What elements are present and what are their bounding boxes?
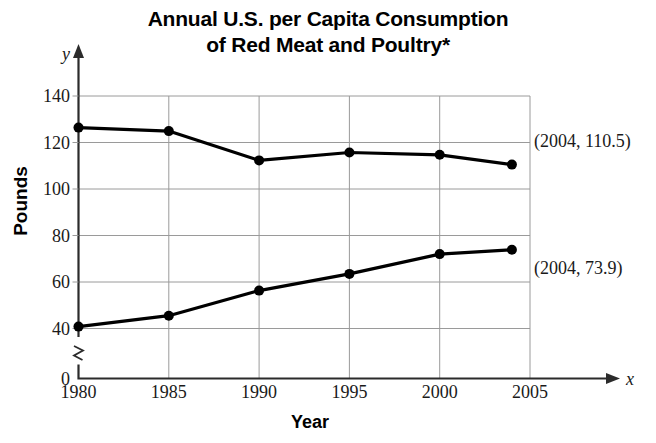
data-point-marker: [74, 123, 84, 133]
x-tick-labels: 198019851990199520002005: [61, 382, 549, 402]
y-tick-label: 120: [43, 133, 70, 153]
series-line-poultry: [79, 250, 512, 327]
x-tick-label: 1995: [331, 382, 367, 402]
chart-page: Annual U.S. per Capita Consumption of Re…: [0, 0, 656, 443]
y-tick-label: 140: [43, 86, 70, 106]
data-point-marker: [507, 160, 517, 170]
axis-break-icon: [74, 346, 83, 360]
y-tick-label: 80: [52, 226, 70, 246]
data-point-marker: [164, 126, 174, 136]
line-chart-plot: 406080100120140 198019851990199520002005…: [0, 0, 656, 443]
data-point-marker: [344, 148, 354, 158]
x-axis-line: [79, 365, 613, 379]
data-point-marker: [344, 269, 354, 279]
x-axis-variable-label: x: [625, 369, 634, 389]
data-point-marker: [435, 150, 445, 160]
y-tick-label: 40: [52, 319, 70, 339]
data-point-annotation: (2004, 73.9): [534, 258, 623, 279]
data-point-marker: [254, 155, 264, 165]
data-point-marker: [507, 245, 517, 255]
y-tick-label: 60: [52, 272, 70, 292]
data-point-marker: [435, 249, 445, 259]
x-tick-label: 1990: [241, 382, 277, 402]
x-axis-arrow-icon: [606, 373, 620, 384]
y-axis-arrow-icon: [73, 44, 84, 58]
data-point-annotation: (2004, 110.5): [534, 131, 631, 152]
axis-lines: [73, 44, 620, 384]
y-axis-zero-label: 0: [61, 369, 70, 389]
data-point-marker: [164, 311, 174, 321]
data-point-marker: [74, 322, 84, 332]
series-line-red-meat: [79, 128, 512, 165]
x-tick-label: 2005: [512, 382, 548, 402]
x-tick-label: 1985: [151, 382, 187, 402]
data-series-group: [74, 123, 517, 332]
y-axis-variable-label: y: [60, 44, 70, 64]
annotations-group: (2004, 110.5)(2004, 73.9): [534, 131, 631, 279]
y-tick-label: 100: [43, 179, 70, 199]
y-tick-labels: 406080100120140: [43, 86, 79, 339]
data-point-marker: [254, 286, 264, 296]
x-tick-label: 2000: [422, 382, 458, 402]
vertical-gridlines: [169, 96, 530, 379]
